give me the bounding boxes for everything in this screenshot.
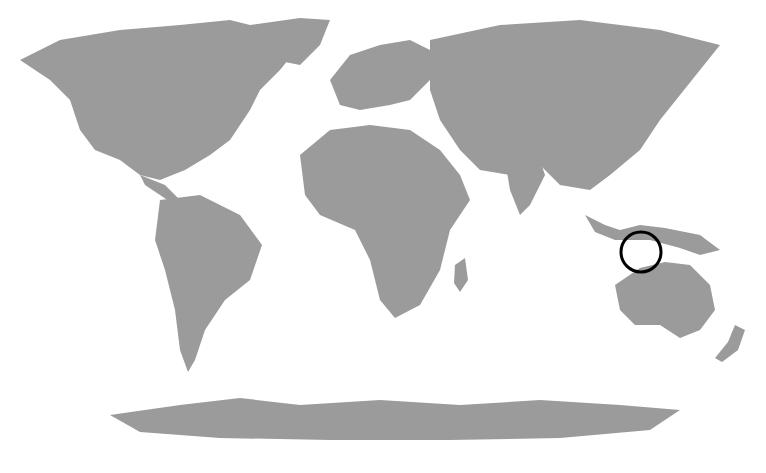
north-america <box>20 20 300 180</box>
asia <box>430 20 720 190</box>
world-map <box>0 0 766 473</box>
africa <box>300 125 470 318</box>
australia <box>615 262 715 338</box>
south-america <box>155 195 262 372</box>
madagascar <box>454 258 468 292</box>
antarctica <box>110 398 680 440</box>
india <box>505 160 545 215</box>
europe <box>330 40 440 110</box>
new-zealand <box>715 325 745 362</box>
